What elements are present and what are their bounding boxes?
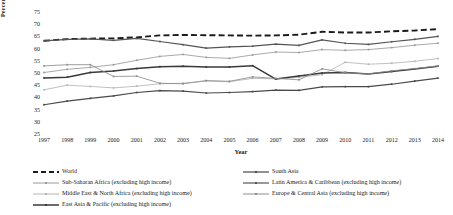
solid-line-key — [33, 201, 59, 209]
series-marker — [275, 51, 277, 53]
series-marker — [414, 60, 416, 62]
series-marker — [229, 58, 231, 60]
legend-label: World — [62, 168, 77, 175]
series-marker — [437, 77, 439, 79]
series-marker — [113, 95, 115, 97]
x-tick-label: 1999 — [84, 137, 96, 143]
series-marker — [205, 47, 207, 49]
series-marker — [113, 70, 115, 72]
series-line — [44, 65, 438, 84]
series-marker — [182, 65, 184, 67]
series-marker — [113, 39, 115, 41]
legend-column-left: WorldSub-Saharan Africa (excluding high … — [33, 166, 192, 210]
series-marker — [229, 66, 231, 68]
series-marker — [391, 62, 393, 64]
legend-item[interactable]: South Asia — [243, 166, 401, 177]
series-marker — [113, 87, 115, 89]
legend-column-right: South AsiaLatin America & Caribbean (exc… — [243, 166, 401, 199]
series-marker — [298, 89, 300, 91]
series-marker — [159, 90, 161, 92]
series-marker — [298, 52, 300, 54]
series-marker — [43, 104, 45, 106]
series-marker — [344, 72, 346, 74]
solid-line-key — [33, 179, 59, 187]
legend-item[interactable]: East Asia & Pacific (excluding high inco… — [33, 199, 192, 210]
series-marker — [414, 80, 416, 82]
series-marker — [66, 64, 68, 66]
series-marker — [66, 84, 68, 86]
series-marker — [113, 64, 115, 66]
legend-label: East Asia & Pacific (excluding high inco… — [62, 201, 171, 208]
series-line — [44, 43, 438, 72]
series-marker — [205, 66, 207, 68]
x-tick-label: 2002 — [154, 137, 166, 143]
series-marker — [437, 36, 439, 38]
series-marker — [205, 80, 207, 82]
series-marker — [159, 56, 161, 58]
legend-label: South Asia — [272, 168, 299, 175]
series-marker — [391, 47, 393, 49]
series-marker — [66, 100, 68, 102]
series-marker — [414, 44, 416, 46]
series-marker — [252, 91, 254, 93]
x-tick-label: 2003 — [177, 137, 189, 143]
legend-item[interactable]: World — [33, 166, 192, 177]
series-marker — [136, 85, 138, 87]
series-marker — [252, 65, 254, 67]
legend-label: Middle East & North Africa (excluding hi… — [62, 190, 192, 197]
x-axis-ticks: 1997199819992000200120022003200420052006… — [44, 137, 438, 147]
solid-line-key — [243, 168, 269, 176]
series-marker — [252, 78, 254, 80]
x-tick-label: 2013 — [409, 137, 421, 143]
series-marker — [43, 72, 45, 74]
series-marker — [321, 72, 323, 74]
plot-area — [44, 12, 438, 134]
legend-item[interactable]: Middle East & North Africa (excluding hi… — [33, 188, 192, 199]
x-tick-label: 1997 — [38, 137, 50, 143]
series-marker — [252, 45, 254, 47]
x-tick-label: 2005 — [223, 137, 235, 143]
series-marker — [43, 89, 45, 91]
series-marker — [437, 42, 439, 44]
y-tick-label: 30 — [34, 119, 40, 125]
series-marker — [159, 82, 161, 84]
legend-label: Europe & Central Asia (excluding high in… — [272, 190, 389, 197]
series-marker — [182, 44, 184, 46]
series-marker — [136, 59, 138, 61]
series-marker — [90, 72, 92, 74]
series-marker — [344, 49, 346, 51]
solid-line-key — [33, 190, 59, 198]
series-marker — [113, 76, 115, 78]
dashed-line-key — [33, 168, 59, 176]
series-marker — [437, 58, 439, 60]
series-marker — [136, 92, 138, 94]
y-axis-label: Percent (%) — [0, 0, 6, 40]
series-marker — [368, 86, 370, 88]
legend-label: Latin America & Caribbean (excluding hig… — [272, 179, 401, 186]
series-line — [44, 29, 438, 41]
series-marker — [66, 68, 68, 70]
series-marker — [391, 70, 393, 72]
chart-legend: WorldSub-Saharan Africa (excluding high … — [0, 166, 453, 215]
solid-line-key — [243, 190, 269, 198]
series-marker — [321, 49, 323, 51]
series-marker — [344, 86, 346, 88]
legend-label: Sub-Saharan Africa (excluding high incom… — [62, 179, 171, 186]
series-marker — [43, 65, 45, 67]
series-marker — [298, 75, 300, 77]
x-tick-label: 2009 — [316, 137, 328, 143]
series-marker — [344, 61, 346, 63]
x-tick-label: 2010 — [339, 137, 351, 143]
series-marker — [368, 49, 370, 51]
series-marker — [414, 68, 416, 70]
x-tick-label: 2001 — [131, 137, 143, 143]
legend-item[interactable]: Latin America & Caribbean (excluding hig… — [243, 177, 401, 188]
series-marker — [275, 78, 277, 80]
x-tick-label: 1998 — [61, 137, 73, 143]
legend-item[interactable]: Sub-Saharan Africa (excluding high incom… — [33, 177, 192, 188]
y-tick-label: 70 — [34, 21, 40, 27]
x-axis-label: Year — [44, 148, 438, 155]
legend-item[interactable]: Europe & Central Asia (excluding high in… — [243, 188, 401, 199]
x-tick-label: 2006 — [247, 137, 259, 143]
series-marker — [43, 40, 45, 42]
